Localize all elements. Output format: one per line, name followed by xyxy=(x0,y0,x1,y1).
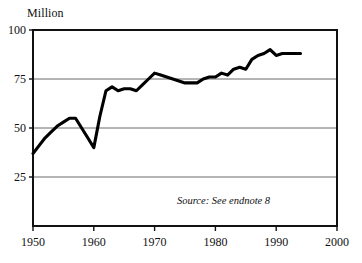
x-axis-tick-label: 1990 xyxy=(264,235,288,249)
y-axis-tick-labels-group: 255075100 xyxy=(8,23,26,184)
x-axis-tick-label: 1970 xyxy=(143,235,167,249)
x-axis-tick-label: 1960 xyxy=(82,235,106,249)
y-axis-tick-label: 75 xyxy=(14,72,26,86)
source-note: Source: See endnote 8 xyxy=(177,195,271,206)
gridlines-group xyxy=(33,79,337,177)
x-axis-tick-label: 2000 xyxy=(325,235,349,249)
x-axis-tick-label: 1950 xyxy=(21,235,45,249)
data-series-line xyxy=(33,50,301,154)
y-axis-tick-label: 100 xyxy=(8,23,26,37)
x-axis-tick-label: 1980 xyxy=(203,235,227,249)
x-axis-tick-labels-group: 195019601970198019902000 xyxy=(21,235,349,249)
y-axis-tick-label: 50 xyxy=(14,121,26,135)
chart-container: Million 255075100 1950196019701980199020… xyxy=(0,0,362,263)
y-axis-tick-label: 25 xyxy=(14,170,26,184)
annotations-group: Source: See endnote 8 xyxy=(177,195,271,206)
line-chart-plot: 255075100 195019601970198019902000 Sourc… xyxy=(0,0,362,263)
